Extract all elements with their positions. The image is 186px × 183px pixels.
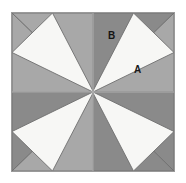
figure-root: A B (0, 0, 186, 183)
region-label-b: B (108, 31, 115, 41)
region-label-a: A (134, 65, 141, 75)
star-pattern-graphic (12, 13, 174, 171)
quilt-square: A B (11, 12, 175, 172)
